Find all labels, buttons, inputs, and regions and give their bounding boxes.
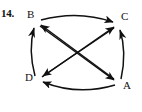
edge-d-to-b	[31, 28, 35, 76]
figure-container: 14. B C D A	[0, 0, 142, 112]
vertex-label-d: D	[25, 72, 33, 83]
vertex-label-b: B	[27, 9, 34, 20]
edge-a-to-d	[43, 82, 115, 90]
vertex-label-a: A	[123, 80, 131, 91]
edge-b-to-c	[41, 15, 113, 22]
vertex-label-c: C	[121, 11, 128, 22]
edge-a-to-c	[120, 30, 124, 79]
